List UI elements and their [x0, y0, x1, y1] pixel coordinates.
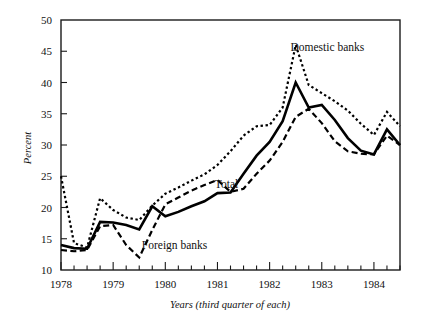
series-label-total: Total — [215, 178, 238, 190]
y-tick-label-20: 20 — [41, 202, 53, 214]
y-tick-label-35: 35 — [41, 108, 53, 120]
x-tick-label-1978: 1978 — [50, 278, 73, 290]
y-axis-tick-labels: 101520253035404550 — [41, 14, 53, 276]
y-tick-label-50: 50 — [41, 14, 53, 26]
x-tick-label-1984: 1984 — [363, 278, 386, 290]
y-tick-label-10: 10 — [41, 264, 53, 276]
x-tick-label-1980: 1980 — [154, 278, 177, 290]
x-tick-label-1982: 1982 — [259, 278, 281, 290]
y-tick-label-15: 15 — [41, 233, 53, 245]
x-tick-label-1979: 1979 — [102, 278, 125, 290]
x-tick-label-1981: 1981 — [206, 278, 228, 290]
y-tick-label-40: 40 — [41, 77, 53, 89]
chart-container: 101520253035404550 197819791980198119821… — [0, 0, 431, 333]
series-label-domestic-banks: Domestic banks — [290, 41, 364, 53]
x-axis-title: Years (third quarter of each) — [170, 299, 290, 311]
y-tick-label-45: 45 — [41, 45, 53, 57]
series-label-foreign-banks: Foreign banks — [142, 239, 208, 252]
x-tick-label-1983: 1983 — [311, 278, 334, 290]
y-axis-title: Percent — [22, 131, 33, 165]
y-tick-label-30: 30 — [41, 139, 53, 151]
y-tick-label-25: 25 — [41, 170, 53, 182]
line-chart: 101520253035404550 197819791980198119821… — [0, 0, 431, 333]
